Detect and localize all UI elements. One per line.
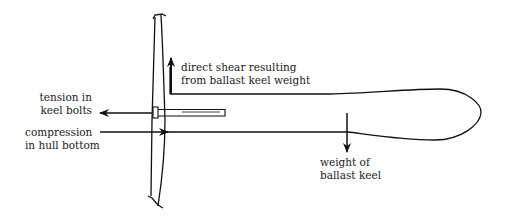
tension-label: tension in keel bolts bbox=[30, 91, 92, 117]
hull-bottom bbox=[148, 14, 166, 208]
tension-label-line1: tension in bbox=[30, 91, 92, 104]
compression-label-line2: in hull bottom bbox=[25, 139, 100, 152]
shear-label-line2: from ballast keel weight bbox=[181, 74, 310, 87]
keel-bolt bbox=[153, 107, 225, 118]
weight-label-line2: ballast keel bbox=[320, 169, 381, 182]
weight-label: weight of ballast keel bbox=[320, 156, 381, 182]
compression-label-line1: compression bbox=[25, 126, 100, 139]
shear-label-line1: direct shear resulting bbox=[181, 61, 310, 74]
weight-label-line1: weight of bbox=[320, 156, 381, 169]
shear-label: direct shear resulting from ballast keel… bbox=[181, 61, 310, 87]
tension-label-line2: keel bolts bbox=[30, 104, 92, 117]
compression-label: compression in hull bottom bbox=[25, 126, 100, 152]
